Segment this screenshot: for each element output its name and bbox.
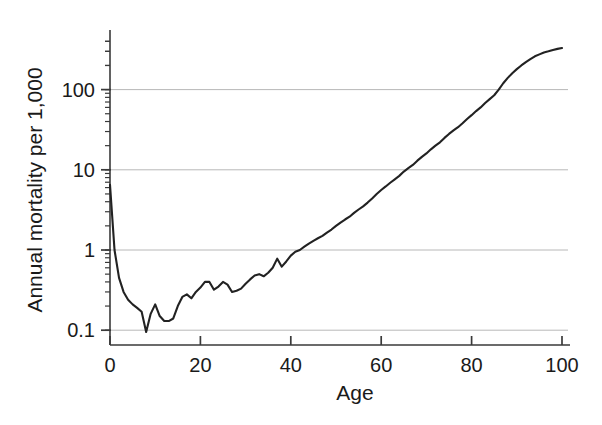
x-axis-tick-labels: 020406080100 (104, 354, 578, 376)
x-tick-label-3: 60 (370, 354, 392, 376)
mortality-chart-figure: 0.1110100 020406080100 Age Annual mortal… (0, 0, 602, 425)
mortality-curve-line (110, 48, 562, 332)
x-tick-label-0: 0 (104, 354, 115, 376)
x-axis-major-ticks (110, 336, 562, 345)
y-tick-label-1: 1 (84, 239, 95, 261)
gridlines-group (110, 90, 568, 331)
y-axis-tick-labels: 0.1110100 (62, 79, 95, 342)
x-tick-label-5: 100 (545, 354, 578, 376)
y-tick-label-0: 0.1 (67, 319, 95, 341)
chart-canvas: 0.1110100 020406080100 Age Annual mortal… (0, 0, 602, 425)
x-tick-label-1: 20 (189, 354, 211, 376)
x-axis-title: Age (336, 381, 373, 404)
x-tick-label-2: 40 (280, 354, 302, 376)
y-axis-group: 0.1110100 (62, 30, 111, 345)
x-axis-group: 020406080100 (104, 336, 578, 376)
y-tick-label-3: 100 (62, 79, 95, 101)
y-axis-title: Annual mortality per 1,000 (23, 67, 46, 312)
x-tick-label-4: 80 (460, 354, 482, 376)
y-tick-label-2: 10 (73, 159, 95, 181)
